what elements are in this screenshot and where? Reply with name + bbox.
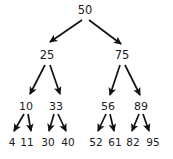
tree-node-95: 95 xyxy=(146,137,159,148)
tree-edge xyxy=(49,114,54,131)
tree-node-82: 82 xyxy=(126,137,139,148)
tree-edge xyxy=(89,20,121,44)
tree-node-33: 33 xyxy=(49,101,63,112)
tree-edge xyxy=(110,114,114,131)
tree-edge xyxy=(98,114,106,131)
tree-edge xyxy=(30,65,45,94)
tree-edge xyxy=(143,114,149,131)
tree-edge xyxy=(28,114,31,131)
tree-node-75: 75 xyxy=(115,50,130,61)
tree-node-50: 50 xyxy=(78,5,93,16)
tree-node-30: 30 xyxy=(41,137,54,148)
tree-edge xyxy=(110,65,120,95)
tree-node-11: 11 xyxy=(20,137,33,148)
tree-edge xyxy=(58,114,66,131)
tree-node-52: 52 xyxy=(89,137,102,148)
tree-edge xyxy=(132,114,139,131)
tree-node-89: 89 xyxy=(134,101,148,112)
tree-edge xyxy=(50,65,60,94)
tree-node-25: 25 xyxy=(40,50,55,61)
tree-node-4: 4 xyxy=(9,137,16,148)
tree-node-10: 10 xyxy=(19,101,33,112)
tree-edge xyxy=(125,65,140,95)
tree-node-56: 56 xyxy=(101,101,115,112)
tree-edges-group xyxy=(14,20,149,131)
tree-node-40: 40 xyxy=(61,137,74,148)
tree-edge xyxy=(50,20,82,42)
tree-node-61: 61 xyxy=(108,137,121,148)
binary-tree-diagram: 50257510335689411304052618295 xyxy=(0,0,173,159)
tree-edge xyxy=(14,114,24,131)
